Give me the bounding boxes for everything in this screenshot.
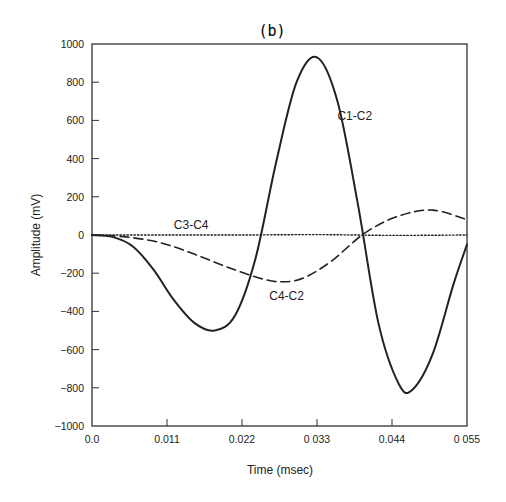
x-tick-label: 0.022 [229,433,255,445]
x-tick-label: 0.044 [379,433,405,445]
y-tick-label: 0 [78,229,84,241]
y-tick-label: 1000 [61,38,85,50]
x-axis-label: Time (msec) [247,463,313,477]
curves [92,57,467,393]
x-axis-ticks: 0.00.0110.0220 0330.0440 055 [85,419,481,445]
x-tick-label: 0.011 [154,433,180,445]
curve-c3-c4 [92,235,467,236]
y-tick-label: −800 [60,382,84,394]
curve-c4-c2 [92,210,467,282]
y-tick-label: 800 [66,76,84,88]
label-c4-c2: C4-C2 [269,289,304,303]
y-axis-label: Amplitude (mV) [29,194,43,277]
y-tick-label: −600 [60,344,84,356]
y-tick-label: 400 [66,153,84,165]
label-c1-c2: C1-C2 [337,109,372,123]
curve-c1-c2 [92,57,467,393]
y-tick-label: −1000 [55,420,85,432]
y-tick-label: 200 [66,191,84,203]
x-tick-label: 0 055 [454,433,480,445]
chart: (b) 10008006004002000−200−400−600−800−10… [0,0,506,502]
curve-labels: C1-C2C3-C4C4-C2 [174,109,373,303]
label-c3-c4: C3-C4 [174,218,209,232]
y-tick-label: 600 [66,114,84,126]
y-tick-label: −200 [60,267,84,279]
x-tick-label: 0 033 [304,433,330,445]
chart-title: (b) [258,22,285,40]
y-tick-label: −400 [60,305,84,317]
x-tick-label: 0.0 [85,433,100,445]
